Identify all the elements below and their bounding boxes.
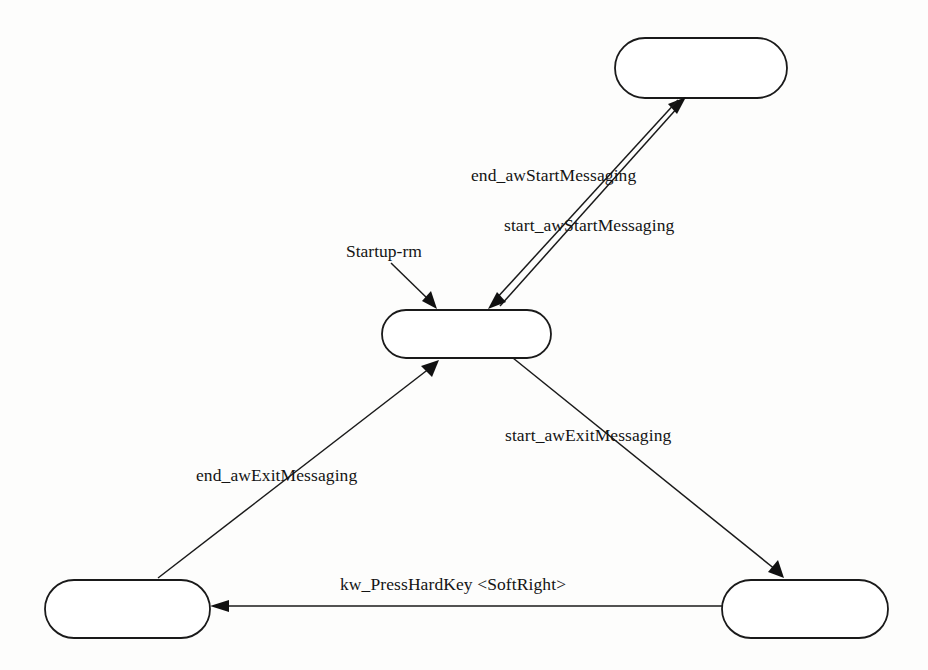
edge-start-aw-exit-messaging-line xyxy=(513,358,776,570)
annotation-startup-rm-arrowhead xyxy=(422,291,437,309)
annotation-startup-rm-pointer xyxy=(391,263,437,309)
edge-end-aw-start-messaging[interactable] xyxy=(488,100,678,309)
node-group xyxy=(45,38,888,638)
node-top[interactable] xyxy=(615,38,787,98)
edge-label-start-aw-start-messaging: start_awStartMessaging xyxy=(504,215,674,236)
edge-kw-press-hard-key[interactable] xyxy=(210,600,722,612)
edge-kw-press-hard-key-arrowhead xyxy=(210,600,229,612)
edge-start-aw-start-messaging-arrowhead xyxy=(668,97,686,114)
edge-end-aw-start-messaging-arrowhead xyxy=(488,292,506,309)
diagram-svg xyxy=(0,0,928,670)
edge-start-aw-start-messaging-line xyxy=(500,106,679,306)
edge-label-end-aw-start-messaging: end_awStartMessaging xyxy=(471,165,636,186)
edge-start-aw-start-messaging[interactable] xyxy=(500,97,686,306)
edge-label-end-aw-exit-messaging: end_awExitMessaging xyxy=(196,465,357,486)
node-bottom-right[interactable] xyxy=(722,580,888,638)
edge-label-kw-press-hard-key: kw_PressHardKey <SoftRight> xyxy=(340,574,566,595)
node-middle[interactable] xyxy=(382,310,551,358)
edge-label-start-aw-exit-messaging: start_awExitMessaging xyxy=(505,425,671,446)
edge-end-aw-start-messaging-line xyxy=(495,100,678,300)
annotation-startup-rm-line xyxy=(391,263,429,300)
edge-end-aw-exit-messaging-arrowhead xyxy=(421,360,439,377)
diagram-canvas: end_awStartMessaging start_awStartMessag… xyxy=(0,0,928,670)
node-bottom-left[interactable] xyxy=(45,580,210,638)
edge-start-aw-exit-messaging[interactable] xyxy=(513,358,784,578)
annotation-label-startup-rm: Startup-rm xyxy=(346,241,422,262)
edge-start-aw-exit-messaging-arrowhead xyxy=(768,560,784,578)
